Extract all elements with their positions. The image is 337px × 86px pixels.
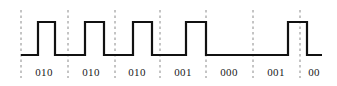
bit-label-0: 010 (24, 66, 64, 78)
bit-label-5: 001 (256, 66, 296, 78)
bit-label-6: 00 (294, 66, 334, 78)
bit-label-1: 010 (71, 66, 111, 78)
bit-label-2: 010 (117, 66, 157, 78)
bit-label-4: 000 (209, 66, 249, 78)
bit-label-3: 001 (163, 66, 203, 78)
signal-trace (21, 22, 322, 55)
waveform-figure: 01001001000100000100 (0, 0, 337, 86)
